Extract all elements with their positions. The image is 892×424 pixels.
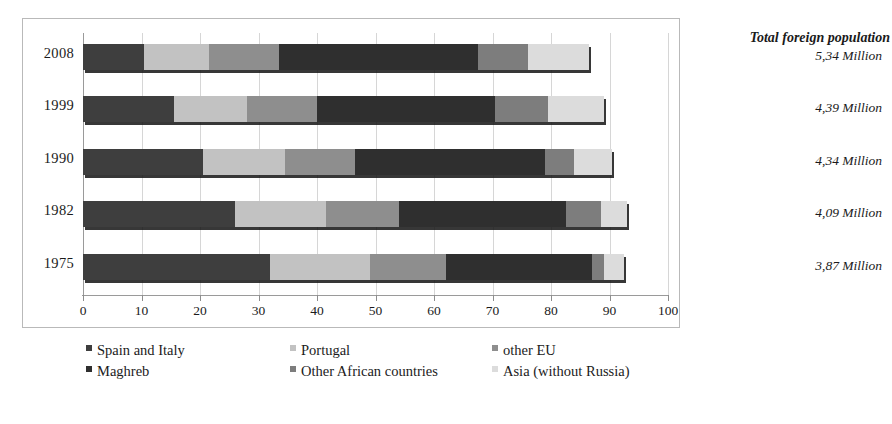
tick-mark-0	[83, 295, 84, 301]
bar-segment[interactable]	[545, 149, 574, 175]
tick-mark-70	[493, 295, 494, 301]
y-category-label: 2008	[44, 45, 74, 62]
bar-segment[interactable]	[83, 96, 174, 122]
bar-row: 1982	[83, 190, 668, 242]
y-category-label: 1990	[44, 150, 74, 167]
legend-swatch-icon	[492, 366, 498, 372]
bar-segment[interactable]	[326, 201, 399, 227]
bar-segment[interactable]	[604, 254, 624, 280]
bar-segment[interactable]	[574, 149, 612, 175]
bar-segment[interactable]	[528, 44, 589, 70]
bar-segment[interactable]	[83, 149, 203, 175]
x-tick-label: 50	[369, 303, 383, 319]
legend-item[interactable]: Asia (without Russia)	[492, 363, 629, 380]
legend-item[interactable]: Other African countries	[290, 363, 438, 380]
bar-segment[interactable]	[279, 44, 478, 70]
bar-segment[interactable]	[285, 149, 355, 175]
legend-item[interactable]: Portugal	[290, 342, 350, 359]
bar-segment[interactable]	[203, 149, 285, 175]
legend-label: Other African countries	[301, 363, 438, 380]
tick-mark-20	[200, 295, 201, 301]
bar-segment[interactable]	[83, 44, 144, 70]
total-population-value: 4,39 Million	[815, 100, 882, 116]
x-tick-label: 40	[310, 303, 324, 319]
chart-page: 20081999199019821975 0102030405060708090…	[0, 0, 892, 424]
legend-label: Portugal	[301, 342, 350, 359]
legend-item[interactable]: Spain and Italy	[86, 342, 185, 359]
bar-segment[interactable]	[209, 44, 279, 70]
total-population-value: 5,34 Million	[815, 48, 882, 64]
bar-segment[interactable]	[495, 96, 548, 122]
legend-label: Asia (without Russia)	[503, 363, 629, 380]
x-tick-label: 60	[427, 303, 441, 319]
tick-mark-10	[142, 295, 143, 301]
legend-swatch-icon	[86, 366, 92, 372]
bar-row: 1975	[83, 243, 668, 295]
legend-label: Maghreb	[97, 363, 149, 380]
stacked-bar[interactable]	[83, 96, 604, 122]
x-tick-label: 10	[135, 303, 149, 319]
x-tick-label: 80	[544, 303, 558, 319]
bar-segment[interactable]	[478, 44, 528, 70]
totals-title: Total foreign population	[750, 30, 890, 46]
x-tick-label: 0	[80, 303, 87, 319]
tick-mark-40	[317, 295, 318, 301]
stacked-bar[interactable]	[83, 149, 612, 175]
total-population-value: 4,34 Million	[815, 153, 882, 169]
legend-swatch-icon	[492, 345, 498, 351]
stacked-bar[interactable]	[83, 254, 624, 280]
y-category-label: 1982	[44, 202, 74, 219]
bar-segment[interactable]	[235, 201, 326, 227]
legend-swatch-icon	[290, 345, 296, 351]
total-population-value: 3,87 Million	[815, 258, 882, 274]
tick-mark-50	[376, 295, 377, 301]
total-population-value: 4,09 Million	[815, 205, 882, 221]
x-axis: 0102030405060708090100	[83, 295, 668, 325]
legend-item[interactable]: other EU	[492, 342, 556, 359]
bar-segment[interactable]	[144, 44, 208, 70]
bar-row: 1999	[83, 85, 668, 137]
tick-mark-30	[259, 295, 260, 301]
bar-segment[interactable]	[566, 201, 601, 227]
bar-segment[interactable]	[601, 201, 627, 227]
bar-segment[interactable]	[83, 201, 235, 227]
plot-area: 20081999199019821975	[83, 33, 668, 295]
tick-mark-90	[610, 295, 611, 301]
tick-mark-80	[551, 295, 552, 301]
x-tick-label: 30	[252, 303, 266, 319]
bar-segment[interactable]	[247, 96, 317, 122]
bar-segment[interactable]	[548, 96, 604, 122]
bar-segment[interactable]	[270, 254, 369, 280]
stacked-bar[interactable]	[83, 201, 627, 227]
x-tick-label: 70	[486, 303, 500, 319]
y-category-label: 1999	[44, 97, 74, 114]
gridline-100	[668, 33, 669, 295]
chart-plot-frame: 20081999199019821975 0102030405060708090…	[22, 18, 680, 328]
x-tick-label: 20	[193, 303, 207, 319]
y-category-label: 1975	[44, 255, 74, 272]
bar-segment[interactable]	[317, 96, 495, 122]
legend-label: Spain and Italy	[97, 342, 185, 359]
bar-rows: 20081999199019821975	[83, 33, 668, 295]
bar-segment[interactable]	[370, 254, 446, 280]
chart-legend: Spain and ItalyPortugalother EUMaghrebOt…	[22, 336, 680, 384]
legend-swatch-icon	[290, 366, 296, 372]
bar-row: 1990	[83, 138, 668, 190]
legend-item[interactable]: Maghreb	[86, 363, 149, 380]
bar-segment[interactable]	[83, 254, 270, 280]
bar-segment[interactable]	[355, 149, 545, 175]
legend-swatch-icon	[86, 345, 92, 351]
totals-column: Total foreign population 5,34 Million4,3…	[690, 18, 890, 328]
bar-row: 2008	[83, 33, 668, 85]
bar-segment[interactable]	[399, 201, 566, 227]
x-tick-label: 100	[658, 303, 678, 319]
bar-segment[interactable]	[446, 254, 592, 280]
tick-mark-60	[434, 295, 435, 301]
bar-segment[interactable]	[174, 96, 247, 122]
bar-segment[interactable]	[592, 254, 604, 280]
tick-mark-100	[668, 295, 669, 301]
stacked-bar[interactable]	[83, 44, 589, 70]
x-tick-label: 90	[603, 303, 617, 319]
legend-label: other EU	[503, 342, 556, 359]
